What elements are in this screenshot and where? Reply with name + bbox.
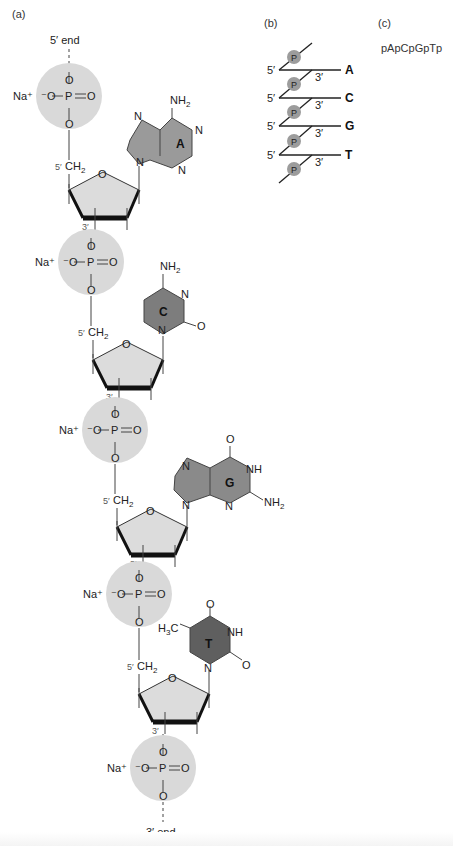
phosphate-group-1: O P O ⁻O O Na⁺ [13, 63, 102, 130]
svg-text:N: N [182, 499, 190, 511]
svg-text:3′: 3′ [315, 127, 323, 139]
svg-text:O: O [87, 240, 96, 252]
phosphate-balls: P P P P P [287, 50, 301, 176]
svg-text:O: O [122, 338, 131, 350]
svg-text:3′: 3′ [315, 156, 323, 168]
svg-text:N: N [134, 110, 142, 122]
svg-text:5′: 5′ [267, 64, 275, 76]
svg-text:P: P [111, 424, 118, 436]
svg-text:CH2: CH2 [137, 660, 158, 675]
svg-text:O: O [226, 433, 235, 445]
svg-text:O: O [168, 672, 177, 684]
svg-text:Na⁺: Na⁺ [59, 424, 79, 436]
base-letter-A: A [176, 137, 185, 151]
panel-c-label: (c) [378, 17, 391, 29]
svg-text:O: O [159, 746, 168, 758]
shorthand-base-T: T [345, 148, 353, 162]
svg-text:O: O [109, 256, 118, 268]
svg-text:3′: 3′ [315, 71, 323, 83]
svg-text:Na⁺: Na⁺ [83, 588, 103, 600]
svg-text:P: P [291, 108, 297, 118]
shorthand-base-G: G [345, 119, 354, 133]
svg-text:N: N [181, 288, 189, 300]
phosphate-group-2: O P O ⁻O O Na⁺ [35, 229, 124, 296]
svg-text:CH2: CH2 [88, 326, 109, 341]
svg-text:O: O [135, 572, 144, 584]
base-letter-G: G [225, 476, 234, 490]
nucleotide-4: O P O ⁻O O Na⁺ 5′ CH2 O 3′ O H3C NH O N … [83, 561, 251, 736]
svg-text:O: O [111, 408, 120, 420]
svg-text:O: O [87, 90, 96, 102]
nucleotide-2: O P O ⁻O O Na⁺ 5′ CH2 O 3′ NH2 N O N C [35, 229, 206, 402]
base-thymine: O H3C NH O N T [158, 598, 251, 674]
svg-text:P: P [135, 588, 142, 600]
svg-text:O: O [135, 616, 144, 628]
deoxyribose-2: O 3′ [93, 338, 163, 402]
svg-text:5′: 5′ [127, 662, 134, 672]
svg-text:NH: NH [227, 626, 243, 638]
svg-text:O: O [197, 320, 206, 332]
svg-text:P: P [291, 80, 297, 90]
svg-text:⁻O: ⁻O [135, 762, 150, 774]
svg-text:⁻O: ⁻O [111, 588, 126, 600]
svg-text:O: O [98, 168, 107, 180]
svg-text:NH2: NH2 [160, 260, 181, 275]
svg-text:N: N [136, 156, 144, 168]
phosphate-group-3: O P O ⁻O O Na⁺ [59, 397, 148, 464]
svg-text:⁻O: ⁻O [63, 256, 78, 268]
base-guanine: N O NH NH2 N N G [174, 433, 285, 512]
svg-text:O: O [159, 790, 168, 802]
svg-text:N: N [178, 164, 186, 176]
deoxyribose-1: O 3′ [69, 168, 139, 232]
svg-text:3′: 3′ [315, 99, 323, 111]
five-prime-end-label: 5′ end [50, 34, 80, 46]
svg-text:N: N [182, 460, 190, 472]
nucleotide-3: O P O ⁻O O Na⁺ 5′ CH2 O 3′ N O NH NH2 N … [59, 397, 285, 569]
svg-text:5′: 5′ [78, 328, 85, 338]
base-cytosine: NH2 N O N C [144, 260, 206, 336]
shorthand-base-A: A [345, 63, 354, 77]
shorthand-base-C: C [345, 91, 354, 105]
svg-text:5′: 5′ [267, 120, 275, 132]
svg-text:N: N [204, 662, 212, 674]
svg-text:O: O [111, 452, 120, 464]
svg-text:5′: 5′ [267, 92, 275, 104]
svg-text:5′: 5′ [267, 149, 275, 161]
svg-text:O: O [146, 505, 155, 517]
svg-text:CH2: CH2 [113, 494, 134, 509]
base-letter-T: T [205, 637, 213, 651]
svg-text:NH2: NH2 [264, 496, 285, 511]
svg-text:P: P [65, 90, 72, 102]
svg-text:O: O [87, 284, 96, 296]
base-letter-C: C [159, 305, 168, 319]
svg-text:5′: 5′ [103, 496, 110, 506]
svg-text:P: P [291, 53, 297, 63]
caption-strip [0, 832, 453, 846]
svg-text:Na⁺: Na⁺ [107, 762, 127, 774]
svg-text:O: O [181, 762, 190, 774]
panel-b-label: (b) [264, 17, 277, 29]
base-adenine: N NH2 N N N A [127, 94, 203, 176]
nucleotide-1: O P O ⁻O O Na⁺ 5′ CH2 O 3′ N NH2 N N N A [13, 63, 203, 232]
svg-text:NH2: NH2 [170, 94, 191, 109]
svg-text:P: P [159, 762, 166, 774]
svg-text:H3C: H3C [158, 622, 178, 637]
svg-text:P: P [87, 256, 94, 268]
svg-text:NH: NH [246, 463, 262, 475]
svg-text:⁻O: ⁻O [41, 90, 56, 102]
svg-text:O: O [133, 424, 142, 436]
svg-text:CH2: CH2 [65, 160, 86, 175]
svg-text:5′: 5′ [55, 162, 62, 172]
svg-text:N: N [158, 324, 166, 336]
svg-text:O: O [242, 659, 251, 671]
svg-text:N: N [225, 500, 233, 512]
svg-text:Na⁺: Na⁺ [35, 256, 55, 268]
svg-text:⁻O: ⁻O [87, 424, 102, 436]
svg-text:O: O [65, 74, 74, 86]
deoxyribose-3: O 3′ [117, 505, 187, 569]
sodium-ion: Na⁺ [13, 90, 33, 102]
svg-text:3′: 3′ [152, 726, 159, 736]
panel-a-label: (a) [12, 8, 25, 20]
svg-text:P: P [291, 137, 297, 147]
deoxyribose-4: O 3′ [139, 672, 209, 736]
